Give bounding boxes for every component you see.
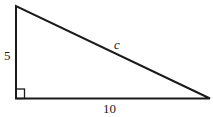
hypotenuse-label: c (114, 37, 120, 52)
right-angle-marker (16, 89, 25, 99)
right-triangle (16, 6, 210, 99)
triangle-diagram: 5 c 10 (0, 0, 213, 117)
horizontal-leg-label: 10 (103, 101, 116, 116)
vertical-leg-label: 5 (4, 48, 11, 63)
